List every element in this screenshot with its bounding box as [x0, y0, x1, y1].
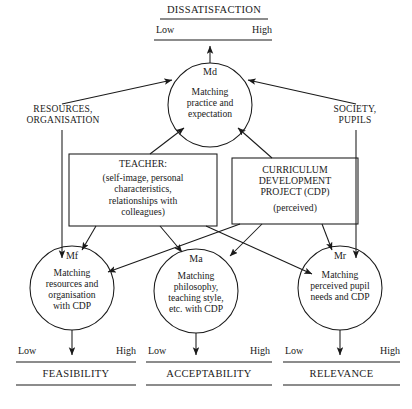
circle-ma-text: Matching philosophy, teaching style, etc…	[150, 271, 242, 315]
side-label-left: RESOURCES, ORGANISATION	[10, 104, 116, 127]
side-label-right: SOCIETY, PUPILS	[312, 104, 398, 127]
arrow-cdp-to-ma	[230, 224, 262, 256]
arrow-cdp-to-mr	[322, 224, 332, 250]
box-teacher-text: (self-image, personal characteristics, r…	[73, 172, 213, 217]
arrow-teacher-to-mf	[82, 226, 96, 250]
arrow-cdp-to-mf	[108, 224, 240, 272]
arrow-cdp-to-md	[238, 128, 272, 158]
box-teacher-head: TEACHER:	[73, 159, 213, 170]
arrow-teacher-to-md	[150, 128, 184, 154]
dissatisfaction-high: High	[230, 24, 272, 35]
circle-ma-code: Ma	[172, 253, 220, 264]
circle-md-code: Md	[186, 66, 234, 77]
relevance-low: Low	[285, 345, 325, 356]
feasibility-high: High	[96, 345, 136, 356]
acceptability-low: Low	[148, 345, 188, 356]
box-cdp-head: CURRICULUM DEVELOPMENT PROJECT (CDP)	[234, 165, 356, 198]
arrow-teacher-to-ma	[160, 226, 182, 252]
relevance-high: High	[360, 345, 400, 356]
acceptability-high: High	[230, 345, 270, 356]
circle-md-text: Matching practice and expectation	[168, 87, 252, 120]
arrow-resources-to-md	[62, 80, 172, 104]
dissatisfaction-title: DISSATISFACTION	[150, 4, 278, 16]
arrow-teacher-to-mr	[206, 226, 312, 274]
dissatisfaction-low: Low	[156, 24, 196, 35]
circle-mf-text: Matching resources and organisation with…	[26, 268, 118, 312]
circle-mf-code: Mf	[48, 250, 96, 261]
relevance-title: RELEVANCE	[283, 368, 400, 380]
acceptability-title: ACCEPTABILITY	[146, 368, 272, 380]
circle-mr-text: Matching perceived pupil needs and CDP	[292, 270, 388, 303]
circle-mr-code: Mr	[316, 250, 364, 261]
feasibility-title: FEASIBILITY	[16, 368, 136, 380]
feasibility-low: Low	[18, 345, 58, 356]
box-cdp-text: (perceived)	[234, 202, 356, 213]
arrow-society-to-md	[248, 80, 356, 104]
